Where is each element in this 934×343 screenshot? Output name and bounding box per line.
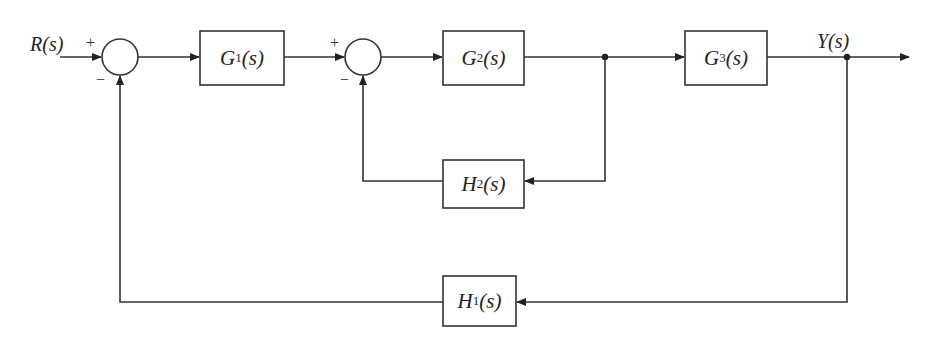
block-g1-arg: (s) — [242, 46, 264, 71]
block-h1: H1(s) — [443, 276, 516, 326]
block-h2-base: H — [462, 172, 477, 197]
block-diagram: R(s) Y(s) + − + − G1(s) G2(s) G3(s) H2(s… — [0, 0, 934, 343]
block-g3-arg: (s) — [726, 46, 748, 71]
block-h1-base: H — [458, 289, 473, 314]
sum2-plus-sign: + — [330, 34, 339, 52]
block-g1-base: G — [220, 46, 235, 71]
summing-junction-2 — [345, 39, 381, 75]
block-g2-base: G — [462, 46, 477, 71]
input-label: R(s) — [30, 33, 63, 56]
output-label: Y(s) — [817, 30, 849, 53]
block-g3: G3(s) — [685, 31, 767, 85]
block-g2-arg: (s) — [483, 46, 505, 71]
block-g3-base: G — [704, 46, 719, 71]
summing-junction-1 — [102, 39, 138, 75]
block-g1: G1(s) — [200, 31, 284, 85]
sum1-minus-sign: − — [96, 71, 105, 89]
sum2-minus-sign: − — [340, 71, 349, 89]
branch-point-g2-output — [602, 54, 608, 60]
block-h1-arg: (s) — [479, 289, 501, 314]
block-g2: G2(s) — [443, 31, 524, 85]
branch-point-y-output — [844, 54, 850, 60]
sum1-plus-sign: + — [86, 34, 95, 52]
block-h2-arg: (s) — [483, 172, 505, 197]
block-h2: H2(s) — [443, 160, 524, 208]
